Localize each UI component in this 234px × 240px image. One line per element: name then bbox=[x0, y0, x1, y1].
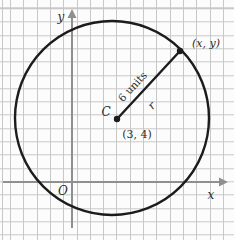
x-axis-label: x bbox=[208, 188, 215, 202]
origin-label: O bbox=[58, 184, 68, 198]
figure-svg: y x O C (3, 4) 6 units r (x, y) bbox=[0, 0, 234, 240]
boundary-point-dot bbox=[177, 48, 183, 54]
boundary-point-label: (x, y) bbox=[192, 37, 220, 50]
diagram-canvas: y x O C (3, 4) 6 units r (x, y) bbox=[0, 0, 234, 240]
center-dot bbox=[114, 116, 120, 122]
radius-symbol-label: r bbox=[145, 99, 159, 112]
center-label: C bbox=[101, 105, 110, 119]
x-axis-arrow-icon bbox=[219, 178, 228, 187]
y-axis-arrow-icon bbox=[68, 9, 77, 18]
y-axis-label: y bbox=[57, 10, 65, 24]
center-coordinates-label: (3, 4) bbox=[122, 128, 152, 141]
radius-length-label: 6 units bbox=[115, 69, 149, 104]
